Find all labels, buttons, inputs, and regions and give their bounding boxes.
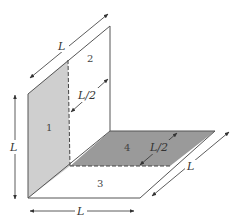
dim-label-top: L <box>57 40 65 53</box>
panel-1-label: 1 <box>46 122 52 133</box>
dim-label-left: L <box>9 141 17 154</box>
dim-label-bottom: L <box>76 205 84 218</box>
panel-2-label: 2 <box>87 53 93 64</box>
panel-3-label: 3 <box>97 178 103 189</box>
dim-label-panel2-half: L/2 <box>77 89 96 102</box>
panel-diagram: L L/2 L/2 L L L 1 2 3 4 <box>0 0 242 221</box>
panel-4-label: 4 <box>124 142 130 153</box>
dim-label-panel4-half: L/2 <box>149 141 168 154</box>
dim-label-right: L <box>186 160 194 173</box>
